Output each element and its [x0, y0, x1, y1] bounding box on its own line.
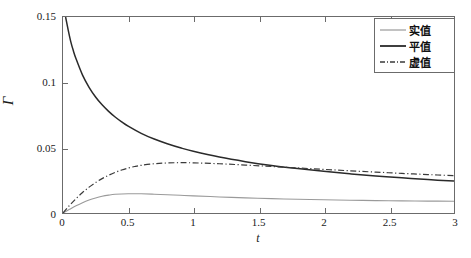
x-tick-label: 2.5 [383, 216, 397, 228]
y-tick-label: 0.05 [37, 142, 56, 154]
x-tick-top [260, 17, 261, 22]
y-axis-label: Γ [0, 97, 17, 106]
legend-swatch-solid [380, 41, 406, 51]
x-tick-label: 1 [190, 216, 196, 228]
legend-box: 实值 平值 虚值 [374, 18, 455, 73]
y-tick-label: 0 [51, 208, 57, 220]
x-tick-top [129, 17, 130, 22]
legend-swatch-solid-light [380, 25, 406, 35]
x-tick-label: 0.5 [121, 216, 135, 228]
legend-swatch-dashdot [380, 57, 406, 67]
legend-label-real: 实值 [409, 22, 431, 38]
x-axis-label: t [256, 231, 259, 246]
y-tick-left [63, 149, 68, 150]
x-tick-bottom [325, 208, 326, 213]
x-tick-label: 1.5 [252, 216, 266, 228]
legend-item: 虚值 [380, 54, 450, 70]
legend-label-mean: 平值 [409, 38, 431, 54]
series-line-0 [63, 194, 454, 213]
x-tick-bottom [194, 208, 195, 213]
legend-item: 实值 [380, 22, 450, 38]
x-tick-top [194, 17, 195, 22]
series-line-2 [63, 163, 454, 213]
legend-label-imag: 虚值 [409, 54, 431, 70]
x-tick-bottom [260, 208, 261, 213]
y-tick-label: 0.15 [37, 10, 56, 22]
x-tick-label: 2 [321, 216, 327, 228]
y-tick-left [63, 83, 68, 84]
x-tick-top [325, 17, 326, 22]
legend-item: 平值 [380, 38, 450, 54]
x-tick-bottom [391, 208, 392, 213]
x-tick-label: 0 [59, 216, 65, 228]
x-tick-label: 3 [452, 216, 458, 228]
chart-figure: 00.511.522.53 00.050.10.15 t Γ 实值 平值 虚值 [0, 0, 471, 258]
y-tick-label: 0.1 [42, 76, 56, 88]
x-tick-bottom [129, 208, 130, 213]
